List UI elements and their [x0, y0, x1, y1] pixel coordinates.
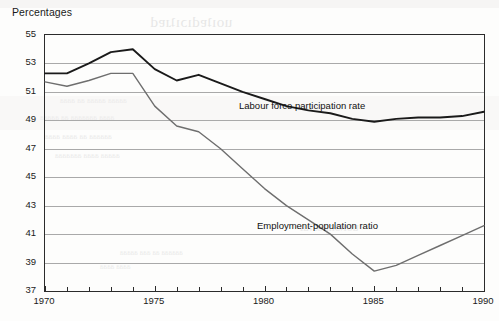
y-axis-tick-label: 41 — [25, 228, 36, 238]
series-label-employment-population-ratio: Employment-population ratio — [257, 221, 378, 231]
x-axis-tick-label: 1970 — [33, 296, 54, 306]
y-axis-tick-label: 39 — [25, 257, 36, 267]
x-axis-labels: 19701975198019851990 — [44, 296, 485, 312]
y-axis-tick-label: 37 — [25, 285, 36, 295]
x-axis-tick — [484, 286, 485, 291]
chart-title: Percentages — [12, 6, 72, 18]
chart-page: uoıʇɐdıɔıʇɹɐd aaaaa aaaaa aa aaaa aaaa a… — [0, 0, 499, 321]
y-axis-tick-label: 45 — [25, 171, 36, 181]
scan-smudge — [0, 0, 499, 8]
x-axis-tick-label: 1990 — [472, 296, 493, 306]
y-axis-tick-label: 55 — [25, 29, 36, 39]
y-axis-tick-label: 51 — [25, 86, 36, 96]
series-lines — [45, 35, 484, 291]
y-axis-tick-label: 43 — [25, 200, 36, 210]
y-axis-tick-label: 47 — [25, 143, 36, 153]
plot-area: Labour force participation rate Employme… — [44, 34, 485, 292]
x-axis-tick-label: 1975 — [143, 296, 164, 306]
series-label-labour-force-participation-rate: Labour force participation rate — [239, 101, 365, 111]
page-bleed-title: uoıʇɐdıɔıʇɹɐd — [150, 14, 232, 31]
x-axis-tick-label: 1980 — [253, 296, 274, 306]
x-axis-tick-label: 1985 — [363, 296, 384, 306]
y-axis-tick-label: 49 — [25, 115, 36, 125]
y-axis-labels: 37394143454749515355 — [0, 34, 40, 292]
y-axis-tick-label: 53 — [25, 58, 36, 68]
